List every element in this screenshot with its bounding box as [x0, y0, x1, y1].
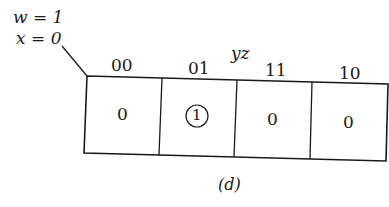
fixed-var-x-label: x = 0 [16, 30, 61, 47]
column-variable-label: yz [231, 45, 250, 62]
cell-10-value: 0 [343, 114, 354, 131]
column-header-01: 01 [188, 60, 210, 77]
corner-diagonal-line [62, 46, 87, 76]
cell-divider-1 [159, 78, 162, 155]
column-header-10: 10 [339, 65, 361, 82]
column-header-00: 00 [111, 57, 133, 74]
column-header-11: 11 [265, 62, 287, 79]
figure-caption: (d) [218, 177, 241, 193]
fixed-var-w-label: w = 1 [13, 9, 63, 26]
cell-00-value: 0 [117, 106, 128, 123]
cell-01-value: 1 [192, 108, 202, 123]
cell-divider-2 [234, 80, 237, 157]
cell-11-value: 0 [267, 111, 278, 128]
cell-divider-3 [310, 82, 312, 159]
